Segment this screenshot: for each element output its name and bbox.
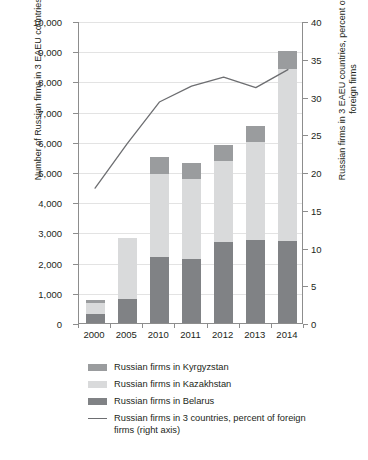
- x-tick-mark: [271, 324, 272, 328]
- x-tick-mark: [239, 324, 240, 328]
- legend-color-swatch: [88, 364, 107, 371]
- chart-container: Number of Russian firms in 3 EAEU countr…: [0, 0, 368, 460]
- y-tick-label-left: 9,000: [38, 47, 62, 58]
- legend-label: Russian firms in Kyrgyzstan: [114, 362, 229, 374]
- y-tick-label-right: 0: [311, 319, 316, 330]
- chart-legend: Russian firms in KyrgyzstanRussian firms…: [88, 362, 313, 442]
- y-tick-label-right: 20: [311, 168, 322, 179]
- x-tick-mark: [207, 324, 208, 328]
- x-tick-mark: [110, 324, 111, 328]
- legend-color-swatch: [88, 398, 107, 405]
- x-tick-mark: [303, 324, 304, 328]
- y-tick-label-right: 5: [311, 281, 316, 292]
- y-tick-label-left: 10,000: [33, 17, 62, 28]
- x-tick-mark: [142, 324, 143, 328]
- legend-label: Russian firms in Belarus: [114, 396, 214, 408]
- y-axis-left-title: Number of Russian firms in 3 EAEU countr…: [33, 0, 44, 189]
- x-tick-label: 2014: [267, 329, 307, 340]
- x-tick-mark: [78, 324, 79, 328]
- y-tick-label-right: 15: [311, 205, 322, 216]
- y-tick-label-left: 0: [57, 319, 62, 330]
- y-tick-label-right: 35: [311, 54, 322, 65]
- y-tick-label-right: 40: [311, 17, 322, 28]
- x-tick-mark: [174, 324, 175, 328]
- legend-item[interactable]: Russian firms in Kazakhstan: [88, 379, 313, 391]
- y-tick-label-left: 2,000: [38, 258, 62, 269]
- y-tick-label-right: 25: [311, 130, 322, 141]
- percent-line: [95, 70, 288, 189]
- y-tick-label-left: 8,000: [38, 77, 62, 88]
- legend-line-swatch: [88, 415, 107, 422]
- legend-label: Russian firms in 3 countries, percent of…: [114, 413, 313, 436]
- y-tick-label-left: 3,000: [38, 228, 62, 239]
- legend-label: Russian firms in Kazakhstan: [114, 379, 231, 391]
- plot-area: [78, 22, 303, 324]
- y-tick-label-left: 4,000: [38, 198, 62, 209]
- legend-item[interactable]: Russian firms in Belarus: [88, 396, 313, 408]
- y-axis-right-title: Russian firms in 3 EAEU countries, perce…: [337, 0, 359, 194]
- legend-color-swatch: [88, 381, 107, 388]
- legend-item[interactable]: Russian firms in Kyrgyzstan: [88, 362, 313, 374]
- y-tick-label-right: 10: [311, 243, 322, 254]
- y-tick-label-left: 6,000: [38, 137, 62, 148]
- legend-line-glyph: [88, 418, 107, 419]
- legend-item[interactable]: Russian firms in 3 countries, percent of…: [88, 413, 313, 436]
- y-tick-label-left: 1,000: [38, 288, 62, 299]
- y-tick-label-left: 5,000: [38, 168, 62, 179]
- y-tick-label-right: 30: [311, 92, 322, 103]
- line-series-layer: [79, 22, 304, 324]
- y-tick-label-left: 7,000: [38, 107, 62, 118]
